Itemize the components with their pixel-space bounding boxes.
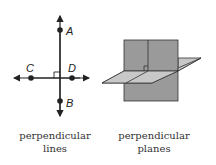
caption-planes-line2: planes bbox=[114, 142, 194, 155]
point-d bbox=[69, 75, 75, 81]
caption-planes-line1: perpendicular bbox=[114, 129, 194, 142]
caption-perpendicular-lines: perpendicular lines bbox=[15, 129, 95, 155]
label-b: B bbox=[66, 97, 73, 109]
perpendicular-planes-figure bbox=[102, 40, 201, 101]
right-angle-marker bbox=[54, 72, 60, 78]
label-d: D bbox=[68, 62, 76, 74]
label-c: C bbox=[26, 62, 34, 74]
caption-lines-line2: lines bbox=[15, 142, 95, 155]
perpendicular-lines-figure: A B C D bbox=[14, 16, 89, 116]
caption-lines-line1: perpendicular bbox=[15, 129, 95, 142]
vertical-plane bbox=[124, 40, 178, 101]
label-a: A bbox=[65, 25, 73, 37]
point-a bbox=[57, 27, 63, 33]
point-c bbox=[28, 75, 34, 81]
point-b bbox=[57, 98, 63, 104]
caption-perpendicular-planes: perpendicular planes bbox=[114, 129, 194, 155]
